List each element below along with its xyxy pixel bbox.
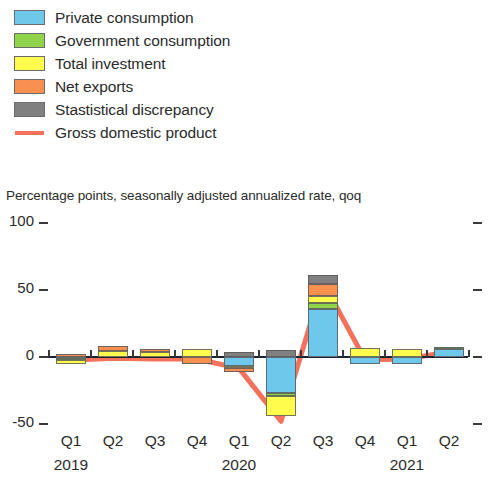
bar-segment	[392, 349, 422, 357]
x-axis-tick	[426, 350, 428, 357]
bar-segment	[350, 348, 380, 357]
x-axis-quarter-label: Q2	[91, 432, 135, 450]
x-axis-year-label: 2019	[43, 456, 99, 474]
y-axis-label: 50	[0, 279, 34, 296]
bar-segment	[98, 346, 128, 351]
y-axis-label: -50	[0, 413, 34, 430]
bar-segment	[266, 350, 296, 357]
x-axis-quarter-label: Q3	[301, 432, 345, 450]
x-axis-tick	[258, 350, 260, 357]
bar-segment	[266, 357, 296, 393]
bar-segment	[308, 303, 338, 309]
gdp-line-series	[0, 0, 491, 481]
bar-segment	[434, 347, 464, 349]
y-axis-label: 100	[0, 212, 34, 229]
bar-segment	[392, 357, 422, 364]
x-axis-tick	[174, 350, 176, 357]
x-axis-quarter-label: Q1	[385, 432, 429, 450]
x-axis-quarter-label: Q2	[427, 432, 471, 450]
bar-segment	[98, 351, 128, 357]
x-axis-quarter-label: Q3	[133, 432, 177, 450]
y-axis-tick	[39, 423, 48, 425]
x-axis-tick	[468, 350, 470, 357]
y-axis-label: 0	[0, 346, 34, 363]
y-axis-tick-right	[473, 222, 482, 224]
bar-segment	[308, 309, 338, 357]
y-axis-tick	[39, 356, 48, 358]
y-axis-tick-right	[473, 356, 482, 358]
x-axis-quarter-label: Q1	[217, 432, 261, 450]
x-axis-quarter-label: Q4	[343, 432, 387, 450]
x-axis-tick	[300, 350, 302, 357]
x-axis-tick	[384, 350, 386, 357]
y-axis-tick	[39, 289, 48, 291]
y-axis-tick-right	[473, 289, 482, 291]
gdp-contributions-chart: Private consumptionGovernment consumptio…	[0, 0, 491, 481]
y-axis-tick-right	[473, 423, 482, 425]
x-axis-tick	[90, 350, 92, 357]
bar-segment	[434, 349, 464, 357]
bar-segment	[308, 275, 338, 284]
x-axis-tick	[216, 350, 218, 357]
bar-segment	[182, 357, 212, 364]
x-axis-tick	[342, 350, 344, 357]
x-axis-quarter-label: Q2	[259, 432, 303, 450]
bar-segment	[308, 296, 338, 303]
x-axis-quarter-label: Q1	[49, 432, 93, 450]
x-axis-tick	[48, 350, 50, 357]
x-axis-year-label: 2021	[379, 456, 435, 474]
bar-segment	[224, 357, 254, 366]
x-axis-tick	[132, 350, 134, 357]
bar-segment	[182, 349, 212, 357]
bar-segment	[308, 284, 338, 296]
bar-segment	[140, 349, 170, 352]
bar-segment	[266, 396, 296, 416]
bar-segment	[56, 360, 86, 363]
plot-area: Q1Q2Q3Q4Q1Q2Q3Q4Q1Q2201920202021 100500-…	[0, 0, 491, 481]
bar-segment	[224, 368, 254, 371]
bar-segment	[350, 357, 380, 364]
y-axis-tick	[39, 222, 48, 224]
x-axis-quarter-label: Q4	[175, 432, 219, 450]
x-axis-year-label: 2020	[211, 456, 267, 474]
bar-segment	[140, 352, 170, 357]
